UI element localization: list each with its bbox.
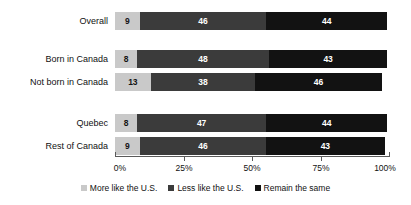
bar-overall: 9 46 44 [115,12,390,30]
plot-area: Overall 9 46 44 Born in Canada 8 48 43 N… [115,0,390,160]
bar-segment-remain-same: 46 [255,73,382,91]
category-label-rest-of-canada: Rest of Canada [45,137,108,155]
chart-row-not-born-in-canada: Not born in Canada 13 38 46 [115,73,390,91]
x-axis-left-cap [115,152,116,157]
chart-row-quebec: Quebec 8 47 44 [115,114,390,132]
legend-item-more-like-us: More like the U.S. [81,183,158,193]
legend-swatch-icon [255,185,261,191]
x-axis-label-75: 75% [312,163,329,173]
category-label-quebec: Quebec [76,114,108,132]
x-axis-tick-25 [184,156,185,161]
bar-segment-remain-same: 43 [266,137,384,155]
legend-swatch-icon [81,185,87,191]
x-axis-tick-50 [252,156,253,161]
legend-swatch-icon [168,185,174,191]
category-label-not-born-in-canada: Not born in Canada [30,73,108,91]
bar-quebec: 8 47 44 [115,114,390,132]
chart-legend: More like the U.S. Less like the U.S. Re… [0,183,411,193]
category-label-born-in-canada: Born in Canada [45,50,108,68]
x-axis-right-cap [389,152,390,157]
bar-segment-less-like-us: 46 [140,12,267,30]
category-label-overall: Overall [79,12,108,30]
chart-row-born-in-canada: Born in Canada 8 48 43 [115,50,390,68]
bar-segment-more-like-us: 8 [115,114,137,132]
bar-segment-remain-same: 44 [266,114,387,132]
x-axis-label-50: 50% [243,163,260,173]
bar-segment-less-like-us: 48 [137,50,269,68]
bar-rest-of-canada: 9 46 43 [115,137,390,155]
bar-segment-more-like-us: 13 [115,73,151,91]
bar-not-born-in-canada: 13 38 46 [115,73,390,91]
x-axis-label-25: 25% [175,163,192,173]
legend-label: More like the U.S. [90,183,158,193]
bar-segment-less-like-us: 46 [140,137,267,155]
legend-label: Less like the U.S. [177,183,243,193]
x-axis-label-0: 0% [114,163,126,173]
x-axis-label-100: 100% [374,163,396,173]
x-axis-tick-75 [321,156,322,161]
bar-segment-more-like-us: 9 [115,137,140,155]
bar-segment-remain-same: 44 [266,12,387,30]
chart-row-overall: Overall 9 46 44 [115,12,390,30]
chart-row-rest-of-canada: Rest of Canada 9 46 43 [115,137,390,155]
bar-segment-less-like-us: 38 [151,73,256,91]
legend-label: Remain the same [264,183,331,193]
bar-segment-more-like-us: 8 [115,50,137,68]
legend-item-remain-the-same: Remain the same [255,183,331,193]
bar-segment-less-like-us: 47 [137,114,266,132]
bar-segment-more-like-us: 9 [115,12,140,30]
bar-born-in-canada: 8 48 43 [115,50,390,68]
stacked-bar-chart: Overall 9 46 44 Born in Canada 8 48 43 N… [0,0,411,205]
legend-item-less-like-us: Less like the U.S. [168,183,243,193]
bar-segment-remain-same: 43 [269,50,387,68]
